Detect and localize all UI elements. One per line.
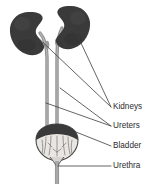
label-bladder: Bladder xyxy=(113,141,141,150)
urethra-group xyxy=(55,161,58,184)
leader-ureters-right xyxy=(60,88,111,126)
right-kidney-shade xyxy=(70,11,86,25)
label-ureters: Ureters xyxy=(113,121,140,130)
labels-group: Kidneys Ureters Bladder Urethra xyxy=(113,102,142,170)
kidneys-group xyxy=(10,6,90,55)
leader-kidneys-right xyxy=(73,26,111,107)
left-kidney-shade-2 xyxy=(18,39,36,51)
left-kidney-shade xyxy=(14,17,30,31)
diagram-canvas: Kidneys Ureters Bladder Urethra xyxy=(0,0,160,189)
label-kidneys: Kidneys xyxy=(113,102,142,111)
label-urethra: Urethra xyxy=(113,161,141,170)
urinary-system-diagram: Kidneys Ureters Bladder Urethra xyxy=(0,0,160,189)
